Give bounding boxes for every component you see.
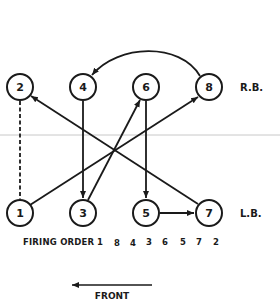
firing-order-row: FIRING ORDER 1 8 4 3 6 5 7 2 xyxy=(23,237,219,248)
connection-8-to-4-curved-arrow xyxy=(92,51,200,76)
cylinder-2: 2 xyxy=(7,74,33,100)
cylinder-6: 6 xyxy=(133,74,159,100)
front-indicator: FRONT xyxy=(72,285,152,301)
firing-order-step-4: 3 xyxy=(146,237,152,247)
firing-order-label: FIRING ORDER xyxy=(23,237,95,247)
cylinder-4-label: 4 xyxy=(79,81,87,94)
cylinder-7: 7 xyxy=(196,200,222,226)
cylinder-8-label: 8 xyxy=(205,81,213,94)
firing-order-step-6: 5 xyxy=(180,237,186,247)
cylinder-7-label: 7 xyxy=(205,207,213,220)
cylinder-4: 4 xyxy=(70,74,96,100)
left-bank-cylinders: 1 3 5 7 L.B. xyxy=(7,200,262,226)
cylinder-3: 3 xyxy=(70,200,96,226)
firing-order-step-8: 2 xyxy=(213,237,219,247)
firing-order-step-5: 6 xyxy=(162,237,168,247)
cylinder-8: 8 xyxy=(196,74,222,100)
connections xyxy=(20,51,200,213)
cylinder-1: 1 xyxy=(7,200,33,226)
cylinder-2-label: 2 xyxy=(16,81,24,94)
firing-order-step-3: 4 xyxy=(130,238,136,248)
firing-order-step-7: 7 xyxy=(196,237,202,247)
cylinder-5: 5 xyxy=(133,200,159,226)
firing-order-diagram: 2 4 6 8 R.B. 1 3 5 7 xyxy=(0,0,280,307)
right-bank-label: R.B. xyxy=(240,82,263,93)
cylinder-3-label: 3 xyxy=(79,207,87,220)
front-label: FRONT xyxy=(95,291,130,301)
right-bank-cylinders: 2 4 6 8 R.B. xyxy=(7,74,263,100)
cylinder-6-label: 6 xyxy=(142,81,150,94)
firing-order-step-2: 8 xyxy=(114,238,120,248)
cylinder-1-label: 1 xyxy=(16,207,24,220)
cylinder-5-label: 5 xyxy=(142,207,150,220)
firing-order-step-1: 1 xyxy=(97,237,103,247)
left-bank-label: L.B. xyxy=(240,208,262,219)
